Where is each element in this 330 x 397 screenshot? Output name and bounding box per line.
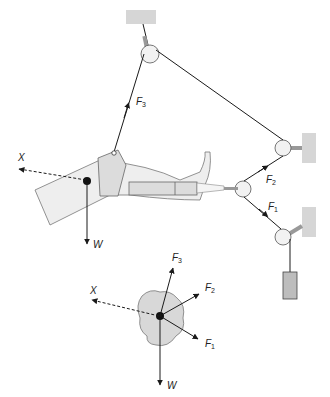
fbd-label-x: X [89, 285, 97, 296]
foot-bandage [129, 182, 197, 195]
right-pulley-upper [275, 140, 291, 156]
free-body-diagram [92, 268, 199, 385]
traction-diagram: X W F3 F2 F1 X W F3 F2 F1 [0, 0, 330, 397]
hanging-weight [283, 272, 297, 299]
label-f3: F3 [136, 96, 146, 108]
leg [35, 150, 238, 225]
label-f2: F2 [266, 174, 276, 186]
fbd-label-w: W [167, 380, 178, 391]
label-f1: F1 [268, 201, 278, 213]
label-w: W [93, 239, 104, 250]
fbd-label-f3: F3 [172, 252, 182, 264]
right-pulley-lower [275, 229, 291, 245]
rope-f1 [244, 197, 281, 229]
rope-top-to-right [156, 50, 283, 140]
label-x: X [17, 152, 25, 163]
fbd-label-f2: F2 [205, 282, 215, 294]
fbd-label-f1: F1 [205, 338, 215, 350]
